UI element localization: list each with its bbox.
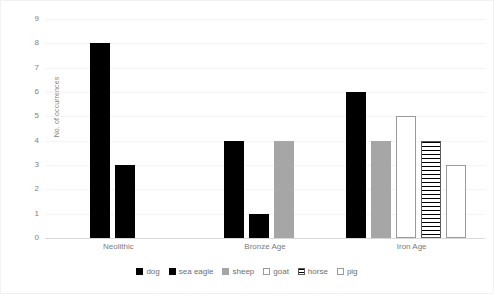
legend-label: horse [308, 267, 328, 276]
bar-neolithic-dog [90, 43, 110, 238]
y-axis-tick-label: 3 [35, 161, 39, 169]
y-axis-tick-label: 6 [35, 88, 39, 96]
y-axis-tick-label: 8 [35, 39, 39, 47]
legend-swatch-icon [337, 268, 344, 275]
gridline [45, 189, 485, 190]
legend-label: pig [347, 267, 358, 276]
bar-iron-age-dog [346, 92, 366, 238]
x-axis-baseline [45, 238, 485, 239]
legend-item-dog[interactable]: dog [136, 267, 159, 276]
y-axis-tick-label: 4 [35, 137, 39, 145]
chart-legend: dogsea eaglesheepgoathorsepig [1, 267, 493, 276]
y-axis-tick-label: 1 [35, 210, 39, 218]
y-axis-tick-label: 0 [35, 234, 39, 242]
legend-swatch-icon [263, 268, 270, 275]
legend-label: goat [273, 267, 289, 276]
bar-iron-age-horse [421, 141, 441, 238]
legend-label: dog [146, 267, 159, 276]
bar-neolithic-sea-eagle [115, 165, 135, 238]
legend-item-pig[interactable]: pig [337, 267, 358, 276]
bar-bronze-age-sheep [274, 141, 294, 238]
bar-iron-age-goat [396, 116, 416, 238]
legend-item-goat[interactable]: goat [263, 267, 289, 276]
y-axis-tick-label: 2 [35, 185, 39, 193]
gridline [45, 116, 485, 117]
gridline [45, 68, 485, 69]
legend-swatch-icon [136, 268, 143, 275]
x-axis-category-label: Iron Age [397, 242, 427, 251]
legend-item-sea-eagle[interactable]: sea eagle [169, 267, 214, 276]
bar-bronze-age-dog [224, 141, 244, 238]
legend-item-horse[interactable]: horse [298, 267, 328, 276]
legend-swatch-icon [169, 268, 176, 275]
x-axis-category-label: Bronze Age [244, 242, 285, 251]
y-axis-tick-label: 9 [35, 15, 39, 23]
legend-label: sheep [232, 267, 254, 276]
gridline [45, 92, 485, 93]
plot-area: 0123456789 [45, 19, 485, 238]
gridline [45, 165, 485, 166]
bar-chart-figure: No. of occurrences 0123456789 NeolithicB… [0, 0, 494, 294]
y-axis-tick-label: 7 [35, 64, 39, 72]
bar-iron-age-pig [446, 165, 466, 238]
legend-swatch-icon [222, 268, 229, 275]
bar-iron-age-sheep [371, 141, 391, 238]
bar-bronze-age-sea-eagle [249, 214, 269, 238]
gridline [45, 141, 485, 142]
y-axis-tick-label: 5 [35, 112, 39, 120]
legend-label: sea eagle [179, 267, 214, 276]
legend-swatch-icon [298, 268, 305, 275]
x-axis-category-label: Neolithic [103, 242, 134, 251]
legend-item-sheep[interactable]: sheep [222, 267, 254, 276]
gridline [45, 19, 485, 20]
gridline [45, 43, 485, 44]
